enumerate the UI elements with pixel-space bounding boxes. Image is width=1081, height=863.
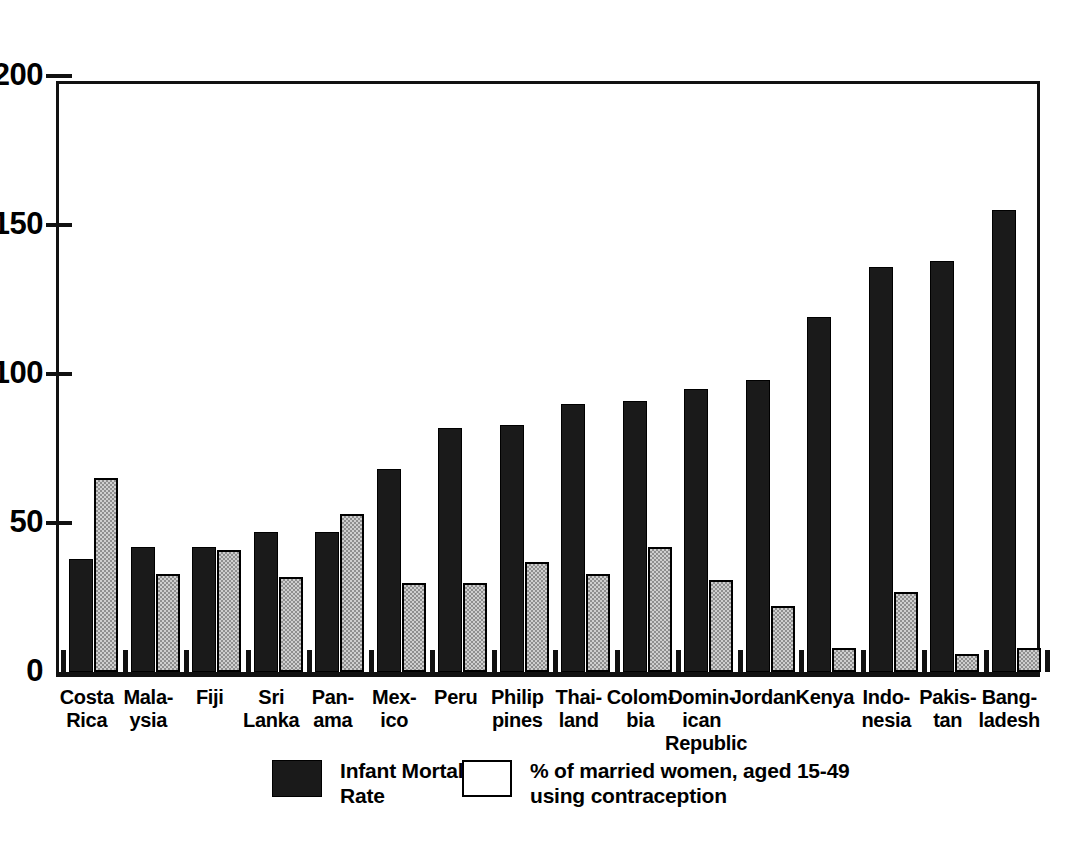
bar-infant-mortality xyxy=(192,547,216,672)
bar-infant-mortality xyxy=(69,559,93,672)
chart-legend: Infant Mortality Rate % of married women… xyxy=(272,758,1032,828)
x-axis-group-tick xyxy=(307,650,312,672)
bar-infant-mortality xyxy=(746,380,770,672)
bar-contraception xyxy=(279,577,303,672)
y-tick-label: 0 xyxy=(26,654,43,688)
bar-infant-mortality xyxy=(869,267,893,672)
x-axis-labels: CostaRicaMala-ysiaFijiSriLankaPan-amaMex… xyxy=(56,686,1040,748)
bar-contraception xyxy=(955,654,979,672)
x-axis-group-tick xyxy=(369,650,374,672)
bar-infant-mortality xyxy=(377,469,401,672)
bar-contraception xyxy=(525,562,549,672)
x-axis-group-tick xyxy=(184,650,189,672)
bar-infant-mortality xyxy=(315,532,339,672)
bar-contraception xyxy=(648,547,672,672)
x-axis-group-tick xyxy=(922,650,927,672)
bar-group xyxy=(254,84,303,672)
bar-group xyxy=(807,84,856,672)
bar-contraception xyxy=(894,592,918,672)
bar-infant-mortality xyxy=(623,401,647,672)
y-tick-mark xyxy=(46,372,72,376)
plot-area: 050100150200 xyxy=(56,81,1040,677)
x-axis-group-tick xyxy=(61,650,66,672)
bar-group xyxy=(623,84,672,672)
bar-contraception xyxy=(1017,648,1041,672)
y-tick-mark xyxy=(46,223,72,227)
x-axis-group-tick xyxy=(430,650,435,672)
bar-group xyxy=(69,84,118,672)
bar-infant-mortality xyxy=(131,547,155,672)
y-tick-label: 100 xyxy=(0,356,43,390)
x-axis-label: Bang-ladesh xyxy=(973,686,1047,732)
bar-group xyxy=(992,84,1041,672)
bar-infant-mortality xyxy=(930,261,954,672)
legend-label-line2: using contraception xyxy=(530,784,727,807)
bar-chart: 050100150200 CostaRicaMala-ysiaFijiSriLa… xyxy=(0,0,1081,863)
x-axis-group-tick xyxy=(799,650,804,672)
bar-contraception xyxy=(217,550,241,672)
bar-group xyxy=(438,84,487,672)
x-axis-group-tick xyxy=(676,650,681,672)
x-axis-group-tick xyxy=(123,650,128,672)
bar-group xyxy=(869,84,918,672)
y-tick-label: 200 xyxy=(0,58,43,92)
legend-label-contraception: % of married women, aged 15-49 using con… xyxy=(530,758,850,808)
bar-group xyxy=(561,84,610,672)
bar-infant-mortality xyxy=(500,425,524,672)
bar-contraception xyxy=(94,478,118,672)
bar-group xyxy=(746,84,795,672)
x-axis-group-tick xyxy=(1045,650,1050,672)
legend-item-infant-mortality: Infant Mortality Rate xyxy=(272,758,487,808)
bar-group xyxy=(500,84,549,672)
bar-group xyxy=(315,84,364,672)
bar-group xyxy=(377,84,426,672)
y-tick-label: 50 xyxy=(10,505,43,539)
x-axis-group-tick xyxy=(984,650,989,672)
legend-swatch-white-icon xyxy=(462,760,512,797)
bar-group xyxy=(684,84,733,672)
legend-swatch-black-icon xyxy=(272,760,322,797)
bar-contraception xyxy=(402,583,426,672)
legend-label-line1: % of married women, aged 15-49 xyxy=(530,759,850,782)
bar-contraception xyxy=(463,583,487,672)
bar-contraception xyxy=(832,648,856,672)
bar-infant-mortality xyxy=(684,389,708,672)
x-axis-group-tick xyxy=(738,650,743,672)
x-axis-group-tick xyxy=(861,650,866,672)
bar-contraception xyxy=(771,606,795,672)
legend-item-contraception: % of married women, aged 15-49 using con… xyxy=(462,758,850,808)
x-axis-group-tick xyxy=(492,650,497,672)
legend-label-line2: Rate xyxy=(340,784,385,807)
bar-infant-mortality xyxy=(807,317,831,672)
y-tick-label: 150 xyxy=(0,207,43,241)
x-axis-group-tick xyxy=(615,650,620,672)
bar-group xyxy=(930,84,979,672)
bar-contraception xyxy=(156,574,180,672)
y-tick-mark xyxy=(46,521,72,525)
x-axis-group-tick xyxy=(553,650,558,672)
bar-contraception xyxy=(709,580,733,672)
y-tick-mark xyxy=(46,74,72,78)
bar-group xyxy=(192,84,241,672)
bar-infant-mortality xyxy=(561,404,585,672)
bars-layer xyxy=(59,84,1037,672)
bar-infant-mortality xyxy=(438,428,462,672)
bar-contraception xyxy=(586,574,610,672)
bar-group xyxy=(131,84,180,672)
x-axis-group-tick xyxy=(246,650,251,672)
bar-contraception xyxy=(340,514,364,672)
bar-infant-mortality xyxy=(992,210,1016,672)
bar-infant-mortality xyxy=(254,532,278,672)
